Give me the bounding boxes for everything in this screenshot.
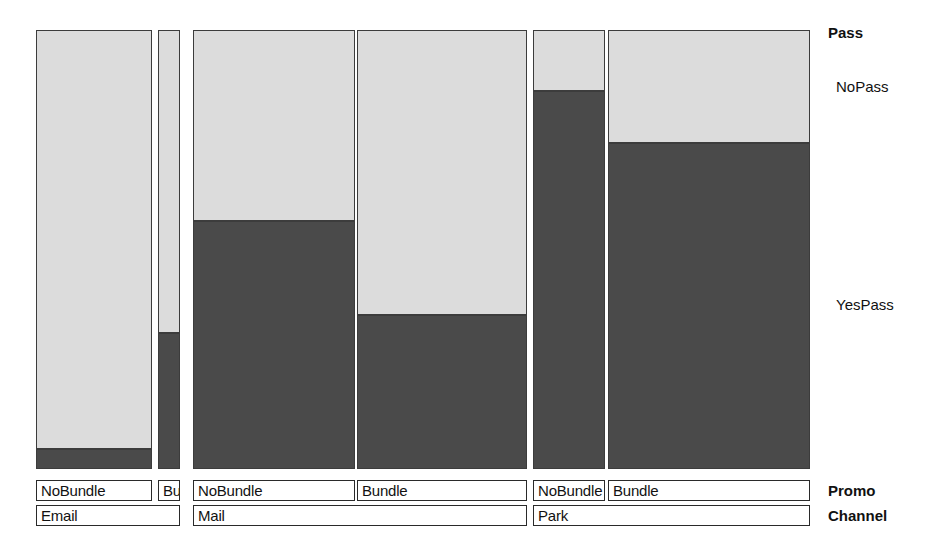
response-level-nopass-label: NoPass [836,78,889,95]
mosaic-tile-park-nobundle-nopass[interactable] [533,30,605,91]
mosaic-tile-email-nobundle-nopass[interactable] [36,30,152,449]
mosaic-plot: NoBundle Bu NoBundle Bundle NoBundle Bun… [0,0,933,554]
mosaic-tile-email-bundle-yespass[interactable] [158,333,180,469]
mosaic-tile-area [0,0,933,554]
channel-box-park-label: Park [534,506,809,525]
promo-box-mail-bundle[interactable]: Bundle [357,480,527,501]
promo-axis-row: NoBundle Bu NoBundle Bundle NoBundle Bun… [0,480,933,501]
promo-box-email-nobundle-label: NoBundle [37,481,151,500]
channel-box-email-label: Email [37,506,179,525]
mosaic-column-park-bundle [608,30,810,469]
channel-box-mail-label: Mail [194,506,526,525]
mosaic-tile-mail-nobundle-yespass[interactable] [193,221,355,469]
mosaic-tile-park-nobundle-yespass[interactable] [533,91,605,469]
channel-box-email[interactable]: Email [36,505,180,526]
promo-box-mail-bundle-label: Bundle [358,481,526,500]
mosaic-tile-email-bundle-nopass[interactable] [158,30,180,333]
mosaic-column-mail-bundle [357,30,527,469]
promo-box-park-nobundle[interactable]: NoBundle [533,480,605,501]
mosaic-tile-park-bundle-nopass[interactable] [608,30,810,143]
channel-box-mail[interactable]: Mail [193,505,527,526]
promo-box-mail-nobundle[interactable]: NoBundle [193,480,355,501]
mosaic-tile-mail-nobundle-nopass[interactable] [193,30,355,221]
response-variable-title: Pass [828,24,863,41]
mosaic-column-email-bundle [158,30,180,469]
mosaic-tile-park-bundle-yespass[interactable] [608,143,810,469]
mosaic-column-park-nobundle [533,30,605,469]
channel-box-park[interactable]: Park [533,505,810,526]
promo-box-park-bundle[interactable]: Bundle [608,480,810,501]
promo-box-email-nobundle[interactable]: NoBundle [36,480,152,501]
mosaic-tile-email-nobundle-yespass[interactable] [36,449,152,469]
mosaic-column-email-nobundle [36,30,152,469]
promo-box-email-bundle-label: Bu [159,481,179,500]
mosaic-tile-mail-bundle-yespass[interactable] [357,315,527,469]
promo-box-mail-nobundle-label: NoBundle [194,481,354,500]
channel-axis-row: Email Mail Park [0,505,933,526]
promo-box-email-bundle[interactable]: Bu [158,480,180,501]
promo-box-park-bundle-label: Bundle [609,481,809,500]
mosaic-column-mail-nobundle [193,30,355,469]
promo-axis-title: Promo [828,480,876,501]
response-level-yespass-label: YesPass [836,296,894,313]
mosaic-tile-mail-bundle-nopass[interactable] [357,30,527,315]
promo-box-park-nobundle-label: NoBundle [534,481,604,500]
channel-axis-title: Channel [828,505,887,526]
